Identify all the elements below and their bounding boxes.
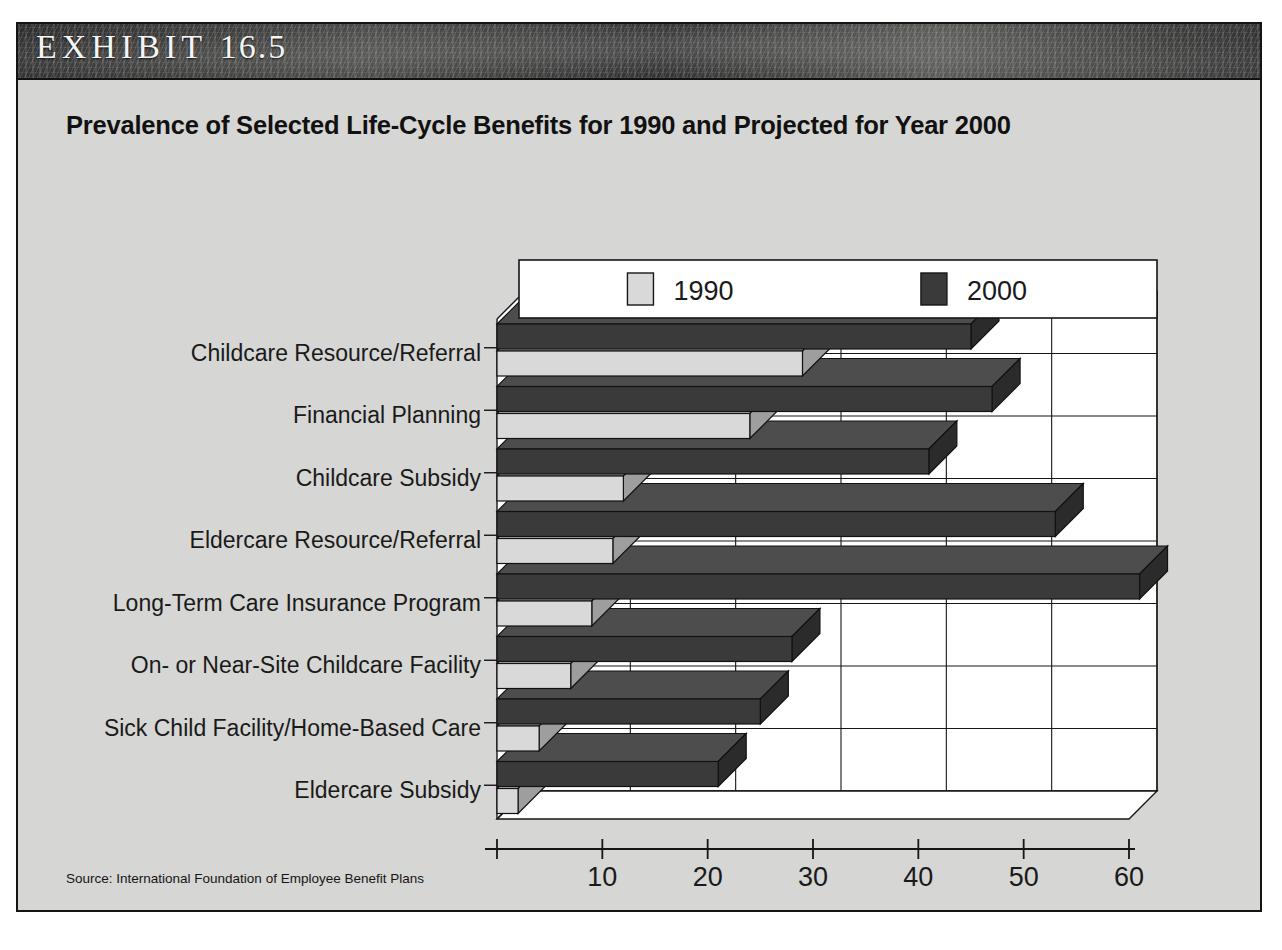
bar-front-face (497, 476, 623, 501)
legend-swatch-2000 (921, 273, 947, 305)
chart-area: Childcare Resource/ReferralFinancial Pla… (18, 80, 1260, 912)
axis-tick-label-10: 10 (587, 862, 617, 892)
bar-front-face (497, 574, 1140, 599)
bar-front-face (497, 762, 718, 787)
legend-label-2000: 2000 (967, 276, 1027, 306)
category-label-2: Childcare Subsidy (296, 465, 482, 491)
axis-tick-label-20: 20 (693, 862, 723, 892)
plot-floor (497, 791, 1157, 819)
bar-front-face (497, 324, 971, 349)
legend-swatch-1990 (627, 273, 653, 305)
category-label-0: Childcare Resource/Referral (191, 340, 481, 366)
bar-front-face (497, 664, 571, 689)
axis-tick-label-60: 60 (1114, 862, 1144, 892)
exhibit-body: Prevalence of Selected Life-Cycle Benefi… (18, 80, 1260, 912)
category-label-4: Long-Term Care Insurance Program (113, 590, 481, 616)
axis-tick-label-30: 30 (798, 862, 828, 892)
bar-front-face (497, 449, 929, 474)
bar-front-face (497, 699, 760, 724)
bar-front-face (497, 351, 802, 376)
bar-front-face (497, 726, 539, 751)
exhibit-label: EXHIBIT 16.5 (36, 28, 287, 66)
exhibit-panel: EXHIBIT 16.5 Prevalence of Selected Life… (16, 22, 1262, 912)
bar-front-face (497, 512, 1055, 537)
bar-chart: Childcare Resource/ReferralFinancial Pla… (18, 80, 1260, 912)
exhibit-label-word: EXHIBIT (36, 28, 206, 65)
axis-tick-label-40: 40 (903, 862, 933, 892)
category-label-3: Eldercare Resource/Referral (190, 527, 481, 553)
bar-front-face (497, 637, 792, 662)
legend-label-1990: 1990 (673, 276, 733, 306)
axis-tick-label-50: 50 (1009, 862, 1039, 892)
bar-front-face (497, 539, 613, 564)
category-label-6: Sick Child Facility/Home-Based Care (104, 715, 481, 741)
legend-box (519, 260, 1157, 318)
exhibit-number: 16.5 (220, 28, 288, 65)
category-label-1: Financial Planning (293, 402, 481, 428)
category-label-5: On- or Near-Site Childcare Facility (131, 652, 482, 678)
bar-front-face (497, 601, 592, 626)
bar-front-face (497, 414, 750, 439)
category-label-7: Eldercare Subsidy (294, 777, 481, 803)
bar-front-face (497, 789, 518, 814)
source-note: Source: International Foundation of Empl… (66, 871, 424, 886)
exhibit-header-band: EXHIBIT 16.5 (18, 24, 1260, 80)
bar-front-face (497, 387, 992, 412)
